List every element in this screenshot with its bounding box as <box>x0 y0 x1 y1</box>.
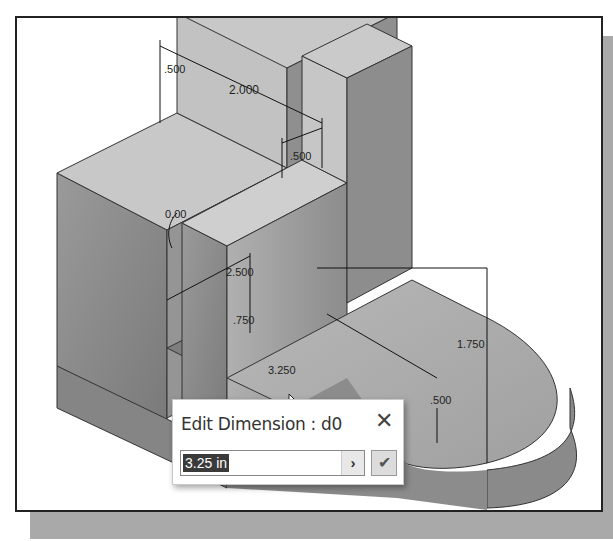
close-icon[interactable]: ✕ <box>375 409 393 433</box>
dim-length[interactable]: 3.250 <box>268 364 296 376</box>
dimension-value-input[interactable]: 3.25 in › <box>180 450 365 476</box>
accept-checkmark-button[interactable]: ✔ <box>371 450 397 476</box>
dim-angle[interactable]: 0.00 <box>165 208 186 220</box>
dim-base-thickness[interactable]: .500 <box>430 394 451 406</box>
dim-height[interactable]: 1.750 <box>457 338 485 350</box>
dim-step-height[interactable]: .750 <box>233 314 254 326</box>
chevron-right-icon[interactable]: › <box>341 451 364 475</box>
cad-viewport-frame: .500 2.000 .500 0.00 2.500 .750 3.250 1.… <box>15 16 603 512</box>
dimension-value-text[interactable]: 3.25 in <box>183 454 229 472</box>
dim-depth[interactable]: 2.500 <box>226 266 254 278</box>
dim-overall-slot[interactable]: 2.000 <box>229 83 259 97</box>
dim-width-top[interactable]: .500 <box>164 63 185 75</box>
edit-dimension-dialog: Edit Dimension : d0 ✕ 3.25 in › ✔ <box>172 399 404 485</box>
dim-width-mid[interactable]: .500 <box>290 150 311 162</box>
dialog-title: Edit Dimension : d0 <box>181 414 342 434</box>
